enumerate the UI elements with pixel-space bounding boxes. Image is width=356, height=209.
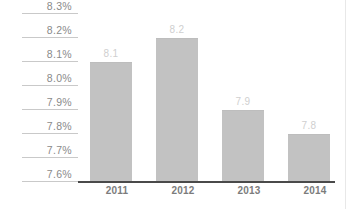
y-axis-grid-stub xyxy=(22,181,78,182)
y-axis-grid-stub xyxy=(22,133,78,134)
bar-value-label: 7.8 xyxy=(288,120,330,131)
x-axis-category-label: 2013 xyxy=(216,185,282,196)
bar[interactable] xyxy=(288,134,330,182)
x-axis-baseline xyxy=(78,181,335,183)
bar-slot: 8.1 xyxy=(84,0,150,182)
x-axis-category-label: 2012 xyxy=(150,185,216,196)
y-axis-tick-label: 7.7% xyxy=(47,144,72,156)
bar-slot: 7.8 xyxy=(282,0,348,182)
bar[interactable] xyxy=(156,38,198,182)
y-axis-grid-stub xyxy=(22,85,78,86)
y-axis-tick-label: 7.6% xyxy=(47,168,72,180)
y-axis-tick-label: 8.0% xyxy=(47,72,72,84)
bar-value-label: 8.1 xyxy=(90,48,132,59)
bar-series: 8.18.27.97.8 xyxy=(78,0,345,182)
y-axis-grid-stub xyxy=(22,37,78,38)
plot-area: 8.18.27.97.8 xyxy=(78,0,345,182)
bar-slot: 8.2 xyxy=(150,0,216,182)
y-axis-tick-label: 8.1% xyxy=(47,48,72,60)
x-axis: 2011201220132014 xyxy=(78,185,345,205)
y-axis-tick-label: 7.9% xyxy=(47,96,72,108)
x-axis-category-label: 2014 xyxy=(282,185,348,196)
y-axis-grid-stub xyxy=(22,157,78,158)
y-axis-grid-stub xyxy=(22,109,78,110)
y-axis-tick-label: 8.2% xyxy=(47,24,72,36)
bar-slot: 7.9 xyxy=(216,0,282,182)
y-axis-tick-label: 8.3% xyxy=(47,0,72,12)
y-axis-tick-label: 7.8% xyxy=(47,120,72,132)
bar-value-label: 8.2 xyxy=(156,24,198,35)
bar-chart: 8.3% 8.2% 8.1% 8.0% 7.9% 7.8% 7.7% 7.6% xyxy=(0,0,356,209)
y-axis: 8.3% 8.2% 8.1% 8.0% 7.9% 7.8% 7.7% 7.6% xyxy=(0,0,78,209)
y-axis-grid-stub xyxy=(22,61,78,62)
y-axis-grid-stub xyxy=(22,13,78,14)
bar[interactable] xyxy=(222,110,264,182)
x-axis-category-label: 2011 xyxy=(84,185,150,196)
bar[interactable] xyxy=(90,62,132,182)
bar-value-label: 7.9 xyxy=(222,96,264,107)
